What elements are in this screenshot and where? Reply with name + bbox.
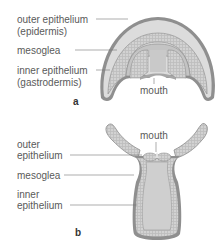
label-mesoglea-b: mesoglea [17,170,60,181]
label-epidermis-a: (epidermis) [17,26,67,37]
label-outer-epithelium-a: outer epithelium [17,14,88,25]
label-mouth-b: mouth [140,130,168,141]
label-epithelium-inner-b: epithelium [17,200,63,211]
label-mesoglea-a: mesoglea [17,45,60,56]
label-inner-epithelium-a: inner epithelium [17,65,88,76]
diagram-canvas [0,0,216,251]
label-mouth-a: mouth [140,85,168,96]
label-epithelium-outer-b: epithelium [17,150,63,161]
label-gastrodermis-a: (gastrodermis) [17,77,81,88]
label-inner-b: inner [17,189,39,200]
figure-letter-b: b [75,227,81,238]
figure-letter-a: a [73,96,79,107]
label-outer-b: outer [17,139,40,150]
